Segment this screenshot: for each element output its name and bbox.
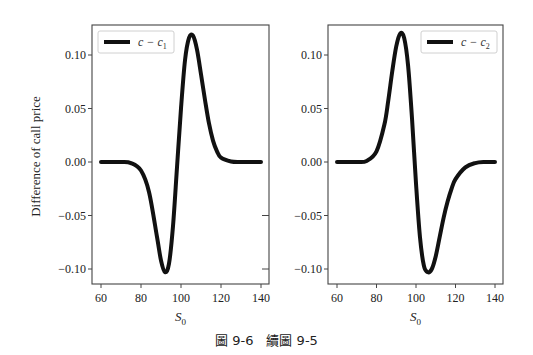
x-tick-label: 60 [331,291,343,305]
x-tick-label: 100 [407,291,425,305]
x-tick-label: 100 [172,291,190,305]
legend: c − c1 [98,31,174,53]
x-axis-label: S0 [175,309,187,327]
x-tick-label: 120 [212,291,230,305]
legend-label: c − c1 [138,35,167,51]
x-tick-label: 140 [486,291,504,305]
x-tick-label: 120 [447,291,465,305]
y-tick-label: 0.00 [301,155,322,169]
legend: c − c2 [421,31,497,53]
x-tick-label: 140 [252,291,270,305]
y-tick-label: 0.00 [65,155,86,169]
legend-label: c − c2 [461,35,490,51]
y-tick-label: −0.10 [58,262,86,276]
subplot-2: 6080100120140−0.10−0.050.000.050.10S0c −… [294,25,504,327]
y-tick-label: 0.05 [65,102,86,116]
axes-frame [92,25,269,284]
x-tick-label: 60 [95,291,107,305]
x-axis-label: S0 [410,309,422,327]
figure-caption: 圖 9-6 續圖 9-5 [0,330,533,349]
y-tick-label: 0.10 [301,48,322,62]
y-axis-label: Difference of call price [28,96,43,217]
series-line [337,33,495,272]
series-line [101,34,261,272]
x-tick-label: 80 [135,291,147,305]
y-tick-label: −0.10 [294,262,322,276]
y-tick-label: 0.10 [65,48,86,62]
chart-canvas: 6080100120140−0.10−0.050.000.050.10S0Dif… [0,0,533,330]
y-tick-label: −0.05 [58,209,86,223]
y-tick-label: 0.05 [301,102,322,116]
x-tick-label: 80 [371,291,383,305]
y-tick-label: −0.05 [294,209,322,223]
subplot-1: 6080100120140−0.10−0.050.000.050.10S0Dif… [28,25,270,327]
